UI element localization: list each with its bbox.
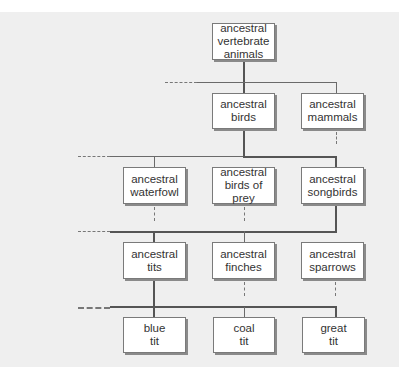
node-ancestral-songbirds: ancestral songbirds: [301, 167, 364, 204]
connector: [243, 156, 337, 158]
node-label: ancestral songbirds: [308, 173, 358, 199]
connector: [154, 156, 155, 167]
node-ancestral-mammals: ancestral mammals: [301, 93, 364, 129]
connector: [244, 231, 245, 242]
connector: [110, 306, 337, 308]
node-label: blue tit: [144, 322, 166, 348]
connector: [153, 279, 155, 317]
node-label: ancestral vertebrate animals: [218, 22, 270, 61]
dotted-branch: [78, 231, 110, 232]
connector: [244, 307, 245, 317]
dotted-branch: [78, 307, 110, 309]
connector: [243, 129, 245, 157]
node-ancestral-finches: ancestral finches: [212, 242, 275, 279]
node-label: great tit: [320, 322, 346, 348]
dotted-branch: [335, 282, 336, 296]
connector: [110, 156, 244, 157]
node-coal-tit: coal tit: [213, 317, 275, 353]
connector: [335, 307, 337, 317]
node-ancestral-sparrows: ancestral sparrows: [301, 242, 364, 279]
node-ancestral-waterfowl: ancestral waterfowl: [123, 167, 186, 204]
node-ancestral-birds-of-prey: ancestral birds of prey: [212, 167, 275, 204]
node-label: ancestral birds of prey: [213, 166, 274, 205]
dotted-branch: [78, 156, 110, 157]
node-ancestral-birds: ancestral birds: [212, 93, 275, 129]
node-ancestral-vertebrate-animals: ancestral vertebrate animals: [212, 23, 275, 60]
dotted-branch: [336, 132, 337, 144]
node-great-tit: great tit: [302, 317, 365, 353]
node-label: coal tit: [233, 322, 254, 348]
node-blue-tit: blue tit: [123, 317, 186, 353]
node-ancestral-tits: ancestral tits: [123, 242, 186, 279]
connector: [110, 231, 337, 233]
node-label: ancestral finches: [220, 248, 267, 274]
connector: [336, 82, 337, 93]
dotted-branch: [244, 207, 245, 221]
connector: [243, 60, 245, 93]
node-label: ancestral tits: [131, 248, 178, 274]
dotted-branch: [165, 82, 197, 83]
connector: [197, 82, 337, 83]
node-label: ancestral sparrows: [309, 248, 356, 274]
node-label: ancestral birds: [220, 98, 267, 124]
connector: [335, 156, 337, 167]
node-label: ancestral mammals: [308, 98, 358, 124]
node-label: ancestral waterfowl: [130, 173, 179, 199]
dotted-branch: [244, 282, 245, 296]
connector: [153, 231, 155, 242]
dotted-branch: [154, 207, 155, 221]
connector: [335, 204, 337, 232]
